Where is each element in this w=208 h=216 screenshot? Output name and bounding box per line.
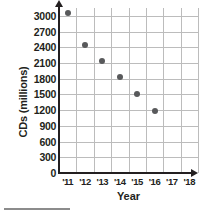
y-axis-tick-label: 2700: [18, 26, 56, 37]
y-axis-tick-label: 1200: [18, 105, 56, 116]
y-axis-line: [58, 6, 60, 174]
y-axis-tick-label: 1500: [18, 89, 56, 100]
cd-sales-scatter-chart: CDs (millions) 3000270024002100180015001…: [0, 0, 208, 216]
gridline-vertical: [163, 8, 164, 173]
bottom-rule-divider: [4, 208, 70, 210]
x-axis-tick-label: '18: [179, 176, 199, 187]
data-point: [82, 42, 88, 48]
y-axis-tick-label: 2100: [18, 58, 56, 69]
x-axis-line: [58, 172, 192, 174]
y-axis-tick-label: 3000: [18, 10, 56, 21]
y-axis-tick-label: 2400: [18, 42, 56, 53]
y-axis-tick-label: 0: [18, 168, 56, 179]
y-axis-arrow-icon: [55, 0, 63, 7]
y-axis-tick-label: 300: [18, 152, 56, 163]
y-axis-tick-labels: 30002700240021001800150012009006003000: [18, 0, 56, 180]
data-point: [65, 10, 71, 16]
gridline-vertical: [111, 8, 112, 173]
gridline-vertical: [181, 8, 182, 173]
gridline-vertical: [94, 8, 95, 173]
data-point: [152, 108, 158, 114]
gridline-vertical: [129, 8, 130, 173]
y-axis-tick-label: 900: [18, 120, 56, 131]
data-point: [134, 91, 140, 97]
gridline-vertical: [146, 8, 147, 173]
x-axis-tick-labels: '11'12'13'14'15'16'17'18: [59, 176, 198, 190]
x-axis-title: Year: [59, 190, 198, 202]
y-axis-tick-label: 1800: [18, 73, 56, 84]
plot-area: [59, 8, 198, 173]
data-point: [117, 74, 123, 80]
y-axis-tick-label: 600: [18, 136, 56, 147]
gridline-vertical: [76, 8, 77, 173]
gridline-vertical: [198, 8, 199, 173]
